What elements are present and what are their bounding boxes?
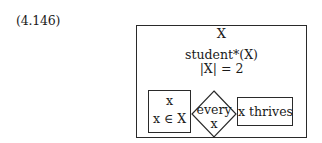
drs-conditions: student*(X) |X| = 2 [137, 48, 306, 76]
scope-box: x thrives [237, 97, 293, 126]
equation-number: (4.146) [16, 14, 60, 28]
restrictor-box: x x ∈ X [148, 90, 191, 133]
quantifier-determiner: every [191, 103, 237, 116]
quantifier-diamond: every x [191, 90, 237, 138]
restrictor-condition: x ∈ X [149, 112, 190, 125]
quantifier-variable: x [191, 117, 237, 130]
drs-universe: X [137, 27, 306, 41]
condition-cardinality: |X| = 2 [137, 62, 306, 76]
scope-condition: x thrives [238, 104, 293, 119]
restrictor-referent: x [149, 94, 190, 107]
condition-student: student*(X) [137, 48, 306, 62]
